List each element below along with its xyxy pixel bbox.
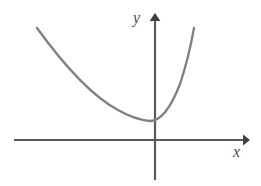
y-axis-arrowhead-icon [150, 13, 161, 21]
parabola-figure: y x [0, 0, 261, 186]
x-axis-arrowhead-icon [243, 134, 250, 145]
x-axis [14, 134, 250, 145]
parabola-curve [37, 28, 194, 121]
y-axis-label: y [133, 9, 140, 27]
plot-canvas [0, 0, 261, 186]
x-axis-label: x [233, 143, 240, 161]
y-axis [150, 13, 161, 180]
